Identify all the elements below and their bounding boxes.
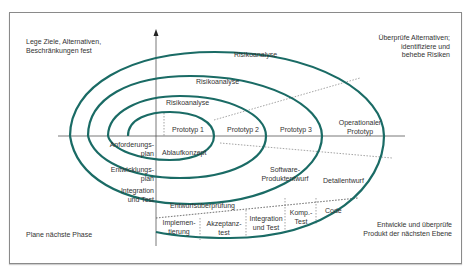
implementation: Implemen- tierung — [158, 219, 200, 236]
risk-analysis-inner: Risikoanalyse — [166, 99, 209, 108]
unit-test: Komp.- Test — [287, 209, 315, 226]
integration-test: Integration und Test — [247, 215, 285, 232]
integration-test-plan: Integration und Test — [100, 187, 154, 204]
flow-concept: Ablaufkonzept — [162, 149, 206, 158]
quadrant-bottom-left: Plane nächste Phase — [26, 231, 92, 240]
development-plan: Entwicklungs- plan — [96, 166, 154, 183]
prototype-1: Prototyp 1 — [172, 126, 204, 135]
design-review: Entwurfsüberprüfung — [170, 202, 235, 211]
quadrant-top-left: Lege Ziele, Alternativen, Beschränkungen… — [26, 38, 101, 55]
prototype-3: Prototyp 3 — [280, 126, 312, 135]
requirements-plan: Anforderungs- plan — [100, 141, 154, 158]
axis-arrow-icon — [154, 29, 159, 36]
software-product-design: Software- Produktentwurf — [252, 166, 318, 183]
code: Code — [325, 207, 342, 216]
prototype-2: Prototyp 2 — [227, 126, 259, 135]
quadrant-bottom-right: Entwickle und überprüfe Produkt der näch… — [340, 221, 452, 238]
prototype-operational: Operationaler Prototyp — [330, 119, 390, 136]
risk-analysis-middle: Risikoanalyse — [196, 78, 239, 87]
risk-analysis-outer: Risikoanalyse — [234, 51, 277, 60]
quadrant-top-right: Überprüfe Alternativen; identifiziere un… — [350, 34, 450, 60]
acceptance-test: Akzeptanz- test — [202, 220, 246, 237]
detail-design: Detailentwurf — [323, 177, 364, 186]
